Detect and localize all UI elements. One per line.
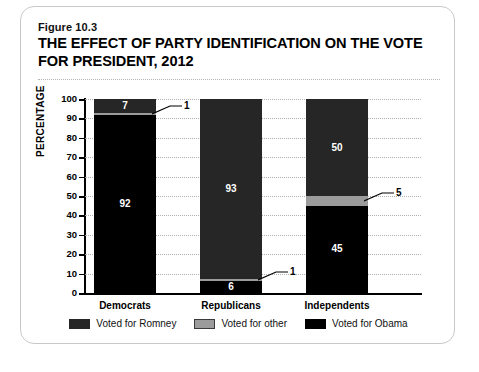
bar-group[interactable]: 4550 xyxy=(306,99,368,293)
bar-value-label: 93 xyxy=(200,184,262,194)
y-tick-mark xyxy=(79,254,84,256)
y-tick-label: 10 xyxy=(49,269,77,279)
y-tick-mark xyxy=(79,118,84,120)
legend-swatch xyxy=(194,319,215,329)
chart-legend: Voted for RomneyVoted for otherVoted for… xyxy=(21,319,456,329)
y-tick-mark xyxy=(79,157,84,159)
figure-card: Figure 10.3 THE EFFECT OF PARTY IDENTIFI… xyxy=(20,6,455,344)
legend-label: Voted for Obama xyxy=(332,319,408,329)
y-tick-mark xyxy=(79,99,84,101)
bar-value-label: 45 xyxy=(306,244,368,254)
bar-group[interactable]: 693 xyxy=(200,99,262,293)
legend-item[interactable]: Voted for Romney xyxy=(69,319,176,329)
y-tick-label: 40 xyxy=(49,210,77,220)
y-tick-mark xyxy=(79,274,84,276)
bar-group[interactable]: 927 xyxy=(94,99,156,293)
y-tick-label: 0 xyxy=(49,288,77,298)
y-tick-mark xyxy=(79,215,84,217)
x-axis-category-label: Republicans xyxy=(171,301,291,311)
bar-value-label: 50 xyxy=(306,143,368,153)
y-tick-label: 70 xyxy=(49,152,77,162)
x-axis-category-label: Independents xyxy=(277,301,397,311)
legend-label: Voted for Romney xyxy=(96,319,176,329)
y-tick-mark xyxy=(79,177,84,179)
bar-segment-other[interactable] xyxy=(306,196,368,206)
legend-swatch xyxy=(305,319,326,329)
legend-item[interactable]: Voted for other xyxy=(194,319,287,329)
callout-value-label: 5 xyxy=(396,188,402,198)
x-axis-category-label: Democrats xyxy=(65,301,185,311)
y-tick-mark xyxy=(79,138,84,140)
y-tick-label: 20 xyxy=(49,249,77,259)
y-tick-label: 30 xyxy=(49,230,77,240)
legend-swatch xyxy=(69,319,90,329)
callout-value-label: 1 xyxy=(290,267,296,277)
callout-value-label: 1 xyxy=(184,101,190,111)
chart-area: PERCENTAGE 1009080706050403020100 927693… xyxy=(21,7,456,345)
y-tick-label: 50 xyxy=(49,191,77,201)
bar-value-label: 92 xyxy=(94,199,156,209)
bar-segment-other[interactable] xyxy=(94,113,156,115)
y-tick-label: 80 xyxy=(49,133,77,143)
y-tick-label: 60 xyxy=(49,172,77,182)
bar-value-label: 7 xyxy=(94,101,156,111)
x-axis-line xyxy=(84,293,422,295)
legend-label: Voted for other xyxy=(221,319,287,329)
y-tick-mark xyxy=(79,196,84,198)
y-tick-label: 100 xyxy=(49,94,77,104)
y-tick-mark xyxy=(79,235,84,237)
bar-value-label: 6 xyxy=(200,282,262,292)
y-tick-label: 90 xyxy=(49,113,77,123)
legend-item[interactable]: Voted for Obama xyxy=(305,319,408,329)
y-axis-title: PERCENTAGE xyxy=(35,85,46,157)
y-tick-mark xyxy=(79,293,84,295)
